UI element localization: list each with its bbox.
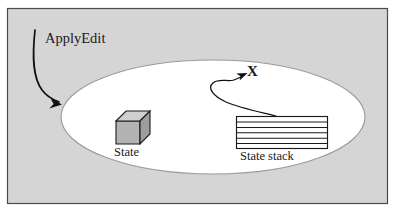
state-cube [116, 111, 150, 144]
x-point-label: X [247, 64, 258, 79]
figure-root: ApplyEdit State State stack X [0, 0, 395, 211]
state-stack-label: State stack [240, 150, 294, 163]
state-label: State [114, 146, 139, 159]
state-cube-front-face [116, 121, 140, 144]
applyedit-label: ApplyEdit [45, 31, 105, 46]
state-stack-shape [237, 117, 328, 149]
